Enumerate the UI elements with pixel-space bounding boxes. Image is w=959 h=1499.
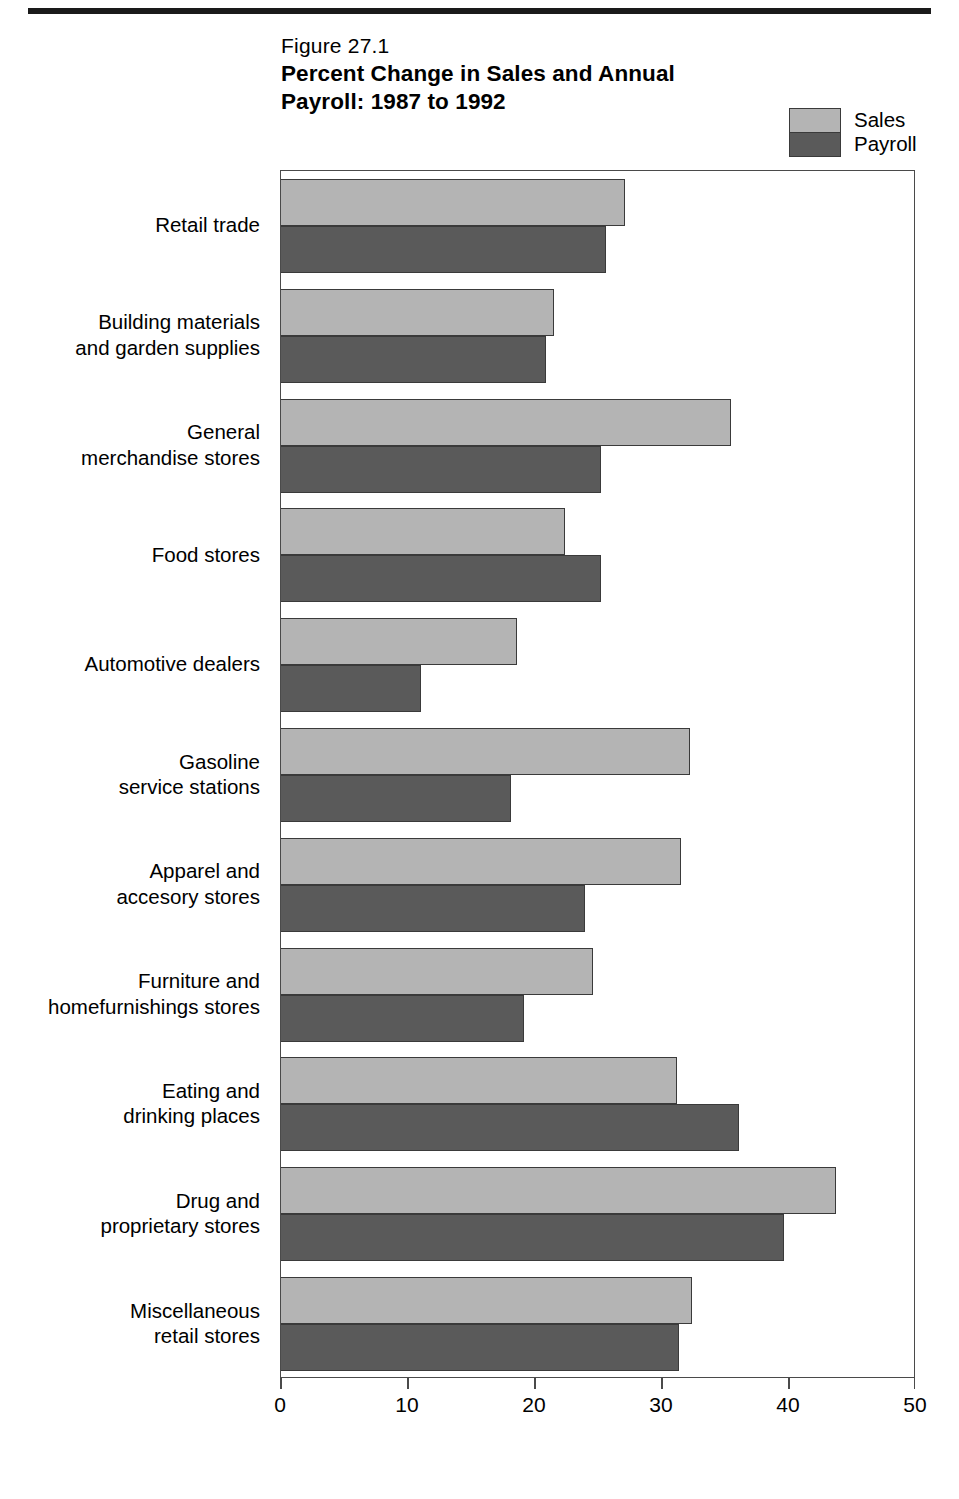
bar-payroll [281, 226, 606, 273]
bar-sales [281, 508, 565, 555]
bar-payroll [281, 555, 601, 602]
bar-sales [281, 179, 625, 226]
y-axis-label: Eating and drinking places [0, 1078, 260, 1129]
bar-payroll [281, 446, 601, 493]
x-axis-tick [914, 1378, 916, 1389]
x-axis-tick-label: 50 [903, 1392, 926, 1417]
x-axis-tick [280, 1378, 282, 1389]
bar-payroll [281, 995, 524, 1042]
x-axis-tick-label: 10 [395, 1392, 418, 1417]
x-axis: 01020304050 [280, 1378, 915, 1438]
bar-sales [281, 289, 554, 336]
bar-payroll [281, 885, 585, 932]
y-axis-label: Retail trade [0, 212, 260, 238]
x-axis-tick-label: 0 [274, 1392, 286, 1417]
bar-chart: Retail tradeBuilding materials and garde… [0, 0, 959, 1499]
x-axis-tick [788, 1378, 790, 1389]
y-axis-label: Building materials and garden supplies [0, 309, 260, 360]
y-axis-label: Apparel and accesory stores [0, 858, 260, 909]
bar-payroll [281, 665, 421, 712]
bar-sales [281, 838, 681, 885]
x-axis-tick [534, 1378, 536, 1389]
bar-sales [281, 948, 593, 995]
bar-sales [281, 1277, 692, 1324]
plot-area [280, 170, 915, 1378]
bar-payroll [281, 336, 546, 383]
y-axis-label: Furniture and homefurnishings stores [0, 968, 260, 1019]
bar-sales [281, 1167, 836, 1214]
bar-sales [281, 618, 517, 665]
bar-sales [281, 728, 690, 775]
y-axis-category-labels: Retail tradeBuilding materials and garde… [0, 170, 274, 1378]
x-axis-tick-label: 30 [649, 1392, 672, 1417]
y-axis-label: Automotive dealers [0, 651, 260, 677]
bar-payroll [281, 775, 511, 822]
bar-sales [281, 1057, 677, 1104]
x-axis-tick-label: 40 [776, 1392, 799, 1417]
x-axis-tick-label: 20 [522, 1392, 545, 1417]
x-axis-tick [407, 1378, 409, 1389]
bar-payroll [281, 1214, 784, 1261]
x-axis-tick [661, 1378, 663, 1389]
y-axis-label: Food stores [0, 542, 260, 568]
bar-payroll [281, 1324, 679, 1371]
y-axis-label: General merchandise stores [0, 419, 260, 470]
bar-payroll [281, 1104, 739, 1151]
y-axis-label: Gasoline service stations [0, 749, 260, 800]
bar-sales [281, 399, 731, 446]
y-axis-label: Drug and proprietary stores [0, 1188, 260, 1239]
y-axis-label: Miscellaneous retail stores [0, 1298, 260, 1349]
